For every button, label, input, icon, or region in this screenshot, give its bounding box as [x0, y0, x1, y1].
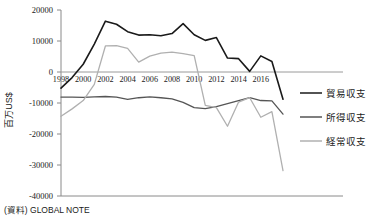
x-tick-label: 2004	[119, 75, 135, 84]
series-line	[61, 21, 283, 99]
x-tick-label: 2012	[208, 75, 224, 84]
legend-label: 所得収支	[326, 112, 366, 123]
y-axis-title: 百万US$	[4, 92, 14, 128]
y-tick-label: -20000	[29, 129, 53, 139]
y-tick-label: 20000	[32, 5, 53, 15]
y-tick-label: 10000	[32, 36, 53, 46]
x-tick-label: 2000	[75, 75, 91, 84]
series-line	[61, 46, 283, 171]
x-tick-label: 2006	[142, 75, 158, 84]
line-chart: 20000100000-10000-20000-30000-40000 1998…	[0, 0, 388, 216]
source-note: (資料) GLOBAL NOTE	[4, 205, 90, 216]
chart-legend: 貿易収支所得収支経常収支	[300, 88, 366, 147]
y-tick-label: -10000	[29, 98, 53, 108]
x-tick-label: 2008	[164, 75, 180, 84]
y-tick-label: -30000	[29, 160, 53, 170]
x-tick-label: 2016	[253, 75, 269, 84]
x-tick-label: 2014	[230, 75, 246, 84]
chart-figure: 20000100000-10000-20000-30000-40000 1998…	[0, 0, 388, 216]
legend-label: 経常収支	[326, 136, 366, 147]
x-tick-label: 2002	[97, 75, 113, 84]
data-series	[61, 21, 283, 170]
x-axis-ticks: 1998200020022004200620082010201220142016	[53, 75, 269, 84]
y-axis-title-label: 百万US$	[4, 92, 14, 128]
y-tick-label: -40000	[29, 191, 53, 201]
series-line	[61, 96, 283, 114]
legend-label: 貿易収支	[326, 88, 366, 99]
y-axis-ticks: 20000100000-10000-20000-30000-40000	[29, 5, 61, 201]
